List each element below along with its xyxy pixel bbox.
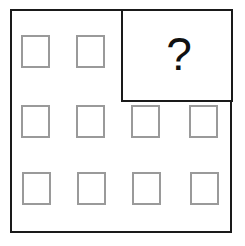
square-r2c3 <box>131 105 160 138</box>
missing-piece-box: ? <box>121 9 233 102</box>
question-mark: ? <box>166 31 192 77</box>
square-r3c1 <box>22 172 51 205</box>
square-r2c2 <box>76 105 105 138</box>
square-r1c2 <box>76 35 105 68</box>
square-r2c4 <box>189 105 218 138</box>
square-r3c3 <box>132 172 161 205</box>
square-r3c2 <box>77 172 106 205</box>
square-r2c1 <box>21 105 50 138</box>
square-r3c4 <box>190 172 219 205</box>
square-r1c1 <box>21 35 50 68</box>
